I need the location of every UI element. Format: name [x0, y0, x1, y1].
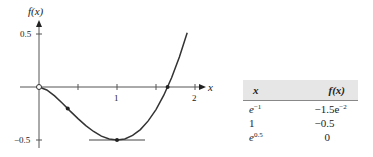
table-row: e0.5 0 [243, 129, 358, 143]
y-tick-label-top: 0.5 [20, 29, 32, 39]
point-minimum [115, 138, 119, 142]
cell-x: e−1 [243, 101, 301, 116]
origin-open-point [37, 85, 42, 90]
function-plot: f(x) x 0.5 −0.5 1 2 [0, 0, 240, 157]
x-tick-label-1: 1 [114, 93, 119, 103]
y-axis-arrow-icon [36, 20, 42, 27]
cell-x: e0.5 [243, 129, 301, 143]
x-axis-arrow-icon [199, 84, 206, 90]
header-x: x [243, 80, 301, 101]
cell-fx: −1.5e−2 [301, 101, 359, 116]
header-fx: f(x) [301, 80, 359, 101]
cell-x: 1 [243, 115, 301, 129]
table-header: x f(x) [243, 80, 358, 101]
y-axis-label: f(x) [28, 5, 44, 18]
function-curve [39, 33, 187, 140]
point-e-inverse [66, 107, 70, 111]
x-axis-label: x [207, 81, 213, 93]
table-row: e−1 −1.5e−2 [243, 101, 358, 116]
y-tick-label-bottom: −0.5 [14, 135, 31, 145]
x-tick-label-2: 2 [192, 93, 197, 103]
point-root [166, 85, 170, 89]
table-row: 1 −0.5 [243, 115, 358, 129]
cell-fx: 0 [301, 129, 359, 143]
cell-fx: −0.5 [301, 115, 359, 129]
values-table: x f(x) e−1 −1.5e−2 1 −0.5 e0.5 0 [243, 80, 358, 143]
